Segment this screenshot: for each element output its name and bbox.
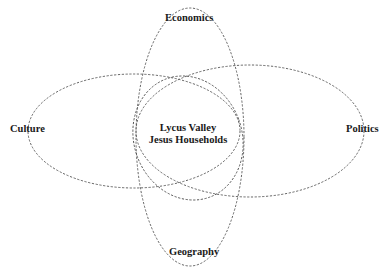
culture-label: Culture bbox=[10, 123, 45, 135]
venn-diagram: Economics Geography Culture Politics Lyc… bbox=[0, 0, 384, 274]
economics-label: Economics bbox=[165, 12, 213, 24]
center-label-line1: Lycus Valley bbox=[138, 122, 238, 134]
politics-label: Politics bbox=[346, 123, 379, 135]
center-label-line2: Jesus Households bbox=[138, 134, 238, 146]
center-label: Lycus Valley Jesus Households bbox=[138, 122, 238, 146]
geography-label: Geography bbox=[169, 246, 219, 258]
